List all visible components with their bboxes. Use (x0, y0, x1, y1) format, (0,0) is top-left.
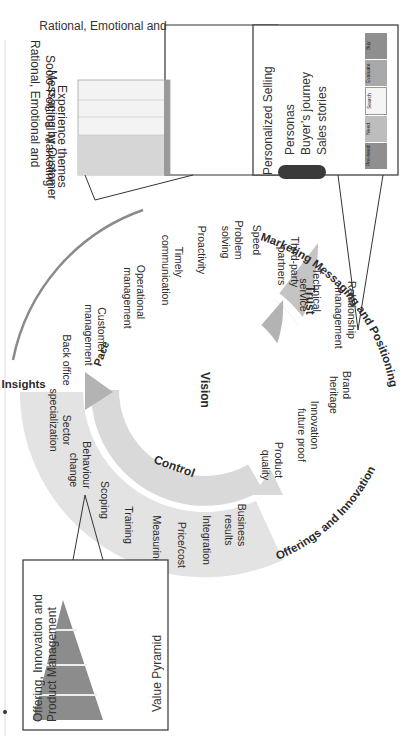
item-back-office: Back office (61, 334, 73, 385)
offering-callout-overlay: Offering, Innovation and Product Managem… (25, 562, 170, 727)
step-pre-need: Pre-need (365, 143, 387, 169)
persona-silhouette-icon (278, 165, 326, 179)
vision-label: Vision (198, 372, 212, 408)
item-third-party: Third-party (289, 237, 301, 289)
item-integration: Integration (201, 515, 213, 565)
item-cust-management: management (83, 304, 95, 365)
item-quality: quality (260, 450, 272, 481)
sales-arc-label: Sales Insights (0, 378, 46, 390)
personalized-selling-title: Personalized Selling (261, 45, 273, 175)
item-behaviour: Behaviour (81, 441, 93, 489)
item-change: change (68, 453, 80, 488)
item-solving: solving (220, 226, 232, 259)
item-measuring: Measuring (151, 515, 163, 564)
item-problem: Problem (233, 220, 245, 259)
value-pyramid-caption: Value Pyramid (150, 602, 164, 712)
marketing-callout-text: Rational, Emotional and Socio-Political … (28, 40, 69, 199)
offering-title-1: Offering, Innovation and (31, 562, 45, 722)
step-evaluate: Evaluate (365, 60, 387, 86)
step-need: Need (365, 116, 387, 142)
item-speed: Speed (251, 225, 263, 256)
item-scoping: Scoping (99, 481, 111, 519)
item-training: Training (123, 506, 135, 544)
item-specialization: specialization (48, 388, 60, 451)
item-proactivity: Proactivity (196, 226, 208, 275)
item-brand: Brand (341, 371, 353, 399)
step-search: Search (365, 87, 387, 115)
step-buy: Buy (365, 33, 387, 59)
item-op-management: management (122, 267, 134, 328)
item-communication: communication (160, 235, 172, 306)
item-product: Product (273, 442, 285, 478)
item-partners: partners (276, 247, 288, 286)
offering-title-2: Product Management (45, 562, 59, 722)
item-results: results (223, 515, 235, 546)
item-relationship: Relationship (346, 281, 358, 339)
item-operational: Operational (135, 265, 147, 319)
item-heritage: heritage (328, 376, 340, 414)
item-future-proof: future proof (296, 408, 308, 462)
buyer-journey-chevrons: Pre-need Need Search Evaluate Buy (365, 33, 387, 169)
item-management: management (333, 287, 345, 348)
sales-callout-overlay: Personalized Selling Personas Buyer’s jo… (253, 25, 395, 173)
item-sector: Sector (61, 415, 73, 446)
item-business: Business (236, 504, 248, 547)
item-price-cost: Price/cost (176, 522, 188, 568)
mkt-line-4: Experience themes (55, 85, 69, 188)
edge-dot (3, 710, 7, 714)
mkt-line-1: Rational, Emotional and (28, 40, 42, 167)
bullet-buyers-journey: Buyer’s journey (299, 55, 313, 155)
marketing-callout: Rational, Emotional and (39, 19, 278, 200)
marketing-callout-title-1: Rational, Emotional and (39, 19, 166, 33)
bullet-personas: Personas (283, 55, 297, 155)
bullet-sales-stories: Sales stories (315, 55, 329, 155)
item-technical: Technical (311, 268, 323, 312)
item-timely: Timely (173, 247, 185, 278)
item-customer: Customer (96, 307, 108, 353)
item-innovation: Innovation (309, 401, 321, 450)
